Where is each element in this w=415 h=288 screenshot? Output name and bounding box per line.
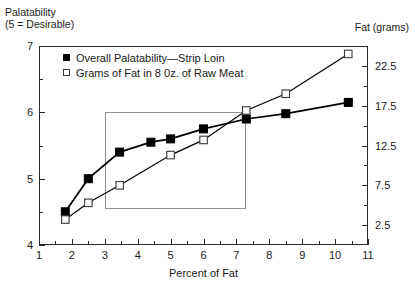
open-square-marker-icon	[116, 182, 124, 190]
open-square-marker-icon	[85, 199, 93, 207]
filled-square-marker-icon	[242, 115, 250, 123]
filled-square-marker-icon	[147, 138, 155, 146]
open-square-marker-icon	[200, 136, 208, 144]
series-1-group	[61, 98, 352, 215]
open-square-marker-icon	[243, 107, 251, 115]
filled-square-marker-icon	[344, 98, 352, 106]
series-2-group	[62, 50, 352, 223]
open-square-marker-icon	[282, 90, 290, 98]
open-square-marker-icon	[345, 50, 353, 58]
open-square-marker-icon	[167, 151, 175, 159]
filled-square-marker-icon	[61, 208, 69, 216]
open-square-marker-icon	[62, 216, 70, 224]
chart-figure: Palatability (5 = Desirable) Fat (grams)…	[0, 0, 415, 288]
filled-square-marker-icon	[116, 148, 124, 156]
series-1-line	[65, 102, 348, 211]
filled-square-marker-icon	[200, 125, 208, 133]
filled-square-marker-icon	[282, 110, 290, 118]
filled-square-marker-icon	[84, 175, 92, 183]
data-series-layer	[0, 0, 415, 288]
filled-square-marker-icon	[167, 135, 175, 143]
